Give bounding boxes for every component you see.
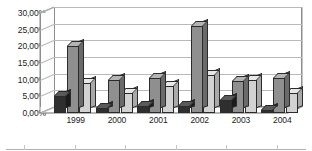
category-axis: 199920002001200220032004: [40, 116, 302, 130]
bar-2003-series-1[interactable]: [220, 100, 232, 113]
bar-group: [178, 13, 215, 113]
bar-face: [149, 78, 161, 113]
x-axis-tick-label: 2000: [94, 116, 140, 125]
bar-series-group: [40, 7, 302, 119]
bottom-table-rule: [6, 145, 306, 151]
rule-tick: [24, 145, 25, 150]
plot-area: [40, 7, 302, 113]
x-axis-tick-label: 2003: [218, 116, 264, 125]
rule-tick: [176, 145, 177, 150]
bar-group: [96, 13, 133, 113]
x-axis-tick-label: 1999: [53, 116, 99, 125]
rule-line: [6, 149, 306, 150]
bar-face: [96, 108, 108, 113]
x-axis-tick-label: 2002: [177, 116, 223, 125]
bar-2001-series-2[interactable]: [149, 78, 161, 113]
bar-group: [220, 13, 257, 113]
bar-2000-series-1[interactable]: [96, 108, 108, 113]
rule-tick: [75, 145, 76, 150]
x-axis-tick-label: 2001: [135, 116, 181, 125]
bar-2002-series-1[interactable]: [178, 106, 190, 113]
rule-tick: [125, 145, 126, 150]
bar-face: [108, 80, 120, 113]
x-axis-tick-label: 2004: [259, 116, 305, 125]
bar-face: [137, 106, 149, 113]
bar-group: [137, 13, 174, 113]
bar-face: [261, 110, 273, 113]
bar-2001-series-1[interactable]: [137, 106, 149, 113]
bar-side: [79, 39, 84, 108]
rule-tick: [277, 145, 278, 150]
bar-group: [54, 13, 91, 113]
bar-group: [261, 13, 298, 113]
bar-side: [203, 19, 208, 108]
bar-2004-series-1[interactable]: [261, 110, 273, 113]
bar-face: [220, 100, 232, 113]
rule-tick: [226, 145, 227, 150]
bar-2000-series-2[interactable]: [108, 80, 120, 113]
chart-container: 0,00%5,00%10,00%15,00%20,00%25,00%30,00%…: [0, 0, 312, 151]
bar-1999-series-1[interactable]: [54, 96, 66, 113]
bar-face: [178, 106, 190, 113]
bar-face: [54, 96, 66, 113]
